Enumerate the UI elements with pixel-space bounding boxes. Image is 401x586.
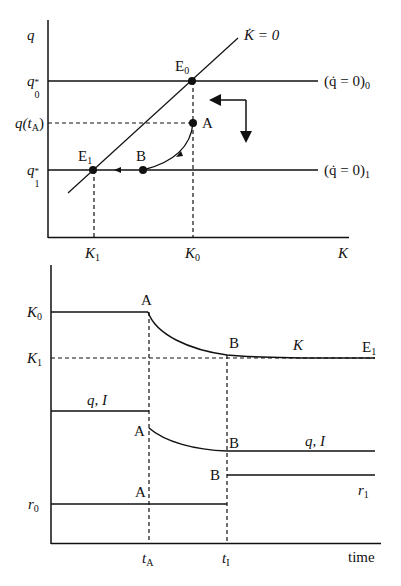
tick-q0-star: q*0 — [27, 74, 43, 89]
label-K-series: K — [293, 338, 303, 353]
K-path-decay — [148, 312, 375, 358]
tick-K0b-base: K — [27, 304, 37, 320]
q-dot-zero-1-sub: 1 — [365, 169, 370, 180]
tick-K1-bottom: K1 — [27, 351, 42, 368]
label-E1-base: E — [78, 148, 87, 164]
label-r1-sub: 1 — [364, 489, 369, 500]
label-E0-base: E — [175, 58, 184, 74]
saddle-path-A-to-B — [143, 123, 193, 170]
q-dot-zero-0-text: (q̇ = 0) — [324, 73, 365, 89]
label-E1b-base: E — [362, 339, 371, 355]
tick-K0-sub: 0 — [195, 252, 200, 263]
label-E1b-sub: 1 — [371, 346, 376, 357]
q-dot-zero-0-sub: 0 — [365, 80, 370, 91]
q-dot-zero-1-text: (q̇ = 0) — [324, 162, 365, 178]
label-E1-top: E1 — [78, 149, 92, 166]
tick-K1b-base: K — [27, 350, 37, 366]
tick-K1-base: K — [85, 245, 95, 261]
leftward-arrow-icon — [114, 167, 121, 173]
label-B-r: B — [210, 468, 220, 483]
tick-tI: tI — [222, 551, 230, 568]
bottom-x-axis-label: time — [348, 550, 375, 565]
label-E1-bottom: E1 — [362, 340, 376, 357]
k-dot-zero-text: K̇ = 0 — [244, 27, 279, 43]
tick-q0-sub: 0 — [35, 90, 40, 100]
tick-K1: K1 — [85, 246, 100, 263]
tick-q1-sup: * — [35, 167, 40, 176]
label-A-q: A — [134, 424, 145, 439]
label-A-r: A — [135, 485, 146, 500]
tick-qtA-sub: A — [32, 122, 39, 133]
k-dot-zero-label: K̇ = 0 — [244, 28, 279, 43]
tick-qtA-text: q(t — [15, 115, 32, 131]
q-dot-zero-0-label: (q̇ = 0)0 — [324, 74, 370, 91]
tick-tA: tA — [142, 551, 153, 568]
label-r1: r1 — [358, 483, 369, 500]
tick-q0-sup: * — [35, 78, 40, 87]
tick-r0: r0 — [28, 497, 39, 514]
label-E0: E0 — [175, 59, 189, 76]
tick-K1-sub: 1 — [95, 252, 100, 263]
label-E1-sub: 1 — [87, 155, 92, 166]
label-qI-before: q, I — [87, 393, 107, 408]
tick-K0: K0 — [185, 246, 200, 263]
point-A-top — [189, 119, 197, 127]
point-B-top — [139, 166, 147, 174]
tick-q1-sub: 1 — [35, 179, 40, 189]
tick-q0-base: q — [27, 73, 35, 89]
top-y-axis-label: q — [27, 28, 35, 43]
label-B-top: B — [136, 149, 146, 164]
label-qI-after: q, I — [305, 434, 325, 449]
label-B-q: B — [229, 436, 239, 451]
point-E1 — [89, 166, 97, 174]
tick-qtA-after: ) — [39, 115, 44, 131]
top-x-axis-label: K — [338, 246, 348, 261]
label-E0-sub: 0 — [184, 65, 189, 76]
tick-q1-star: q*1 — [27, 163, 43, 178]
tick-q-tA: q(tA) — [15, 116, 44, 133]
tick-K1b-sub: 1 — [37, 357, 42, 368]
label-A-K: A — [141, 293, 152, 308]
tick-K0-bottom: K0 — [27, 305, 42, 322]
tick-r0-sub: 0 — [34, 503, 39, 514]
point-E0 — [188, 77, 196, 85]
qI-path-decay — [149, 428, 227, 451]
tick-K0b-sub: 0 — [37, 311, 42, 322]
tick-tI-sub: I — [226, 557, 229, 568]
phase-diagram — [48, 20, 349, 238]
q-dot-zero-1-label: (q̇ = 0)1 — [324, 163, 370, 180]
tick-tA-sub: A — [146, 557, 153, 568]
tick-q1-base: q — [27, 162, 35, 178]
label-B-K: B — [229, 336, 239, 351]
tick-K0-base: K — [185, 245, 195, 261]
label-A-top: A — [202, 116, 213, 131]
